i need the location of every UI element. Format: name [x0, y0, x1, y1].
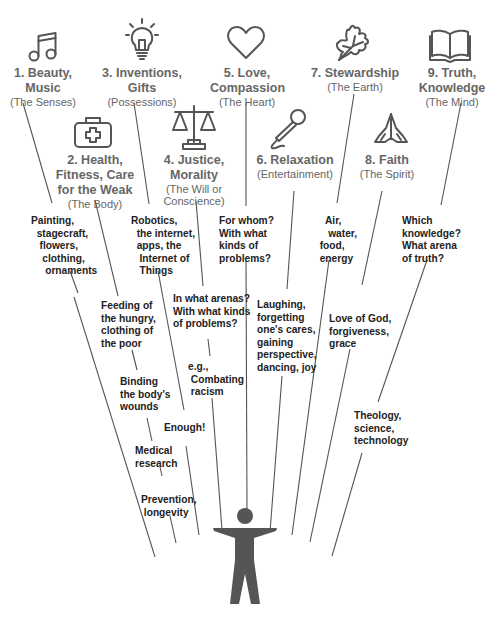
domain-title: 1. Beauty, Music	[0, 66, 86, 96]
line-health	[170, 516, 176, 543]
domain-title: 9. Truth, Knowledge	[414, 66, 490, 96]
domain-subtitle: (The Will or Conscience)	[156, 183, 232, 207]
line-truth	[441, 103, 461, 205]
domain-title: 2. Health, Fitness, Care for the Weak	[52, 153, 138, 198]
note-inventions-enough: Enough!	[164, 422, 205, 435]
note-justice-racism: e.g., Combating racism	[188, 361, 244, 399]
note-truth: Which knowledge? What arena of truth?	[402, 215, 461, 265]
line-relaxation	[287, 191, 294, 289]
domain-justice: 4. Justice, Morality (The Will or Consci…	[156, 153, 232, 207]
domain-inventions: 3. Inventions, Gifts (Possessions)	[102, 66, 182, 108]
domain-subtitle: (The Senses)	[0, 96, 86, 108]
domain-title: 8. Faith	[354, 153, 420, 168]
domain-title: 3. Inventions, Gifts	[102, 66, 182, 96]
line-beauty	[23, 103, 52, 203]
domain-health: 2. Health, Fitness, Care for the Weak (T…	[52, 153, 138, 210]
note-relaxation: Laughing, forgetting one's cares, gainin…	[257, 299, 316, 375]
line-health	[132, 350, 137, 370]
note-health-feeding: Feeding of the hungry, clothing of the p…	[101, 300, 156, 350]
leaf-icon	[333, 22, 373, 64]
domain-subtitle: (The Spirit)	[354, 168, 420, 180]
line-truth	[332, 453, 362, 556]
domain-subtitle: (The Earth)	[309, 81, 401, 93]
domain-title: 5. Love, Compassion	[210, 66, 284, 96]
domain-title: 4. Justice, Morality	[156, 153, 232, 183]
line-inventions	[186, 446, 199, 535]
domain-subtitle: (The Heart)	[210, 96, 284, 108]
domain-love: 5. Love, Compassion (The Heart)	[210, 66, 284, 108]
light-bulb-icon	[122, 16, 162, 62]
note-justice-arenas: In what arenas? With what kinds of probl…	[173, 293, 250, 331]
line-justice	[208, 339, 210, 356]
note-beauty: Painting, stagecraft, flowers, clothing,…	[31, 215, 97, 278]
music-note-icon	[27, 32, 59, 62]
domain-subtitle: (Entertainment)	[254, 168, 336, 180]
note-faith: Love of God, forgiveness, grace	[329, 313, 391, 351]
note-inventions: Robotics, the internet, apps, the Intern…	[131, 215, 195, 278]
scales-of-justice-icon	[171, 104, 217, 152]
note-health-prevention: Prevention, longevity	[141, 494, 196, 519]
domain-subtitle: (The Body)	[52, 198, 138, 210]
domain-subtitle: (Possessions)	[102, 96, 182, 108]
first-aid-kit-icon	[73, 115, 113, 149]
praying-hands-icon	[371, 110, 411, 150]
line-health	[95, 200, 118, 296]
domain-stewardship: 7. Stewardship (The Earth)	[309, 66, 401, 93]
note-truth-theology: Theology, science, technology	[354, 410, 408, 448]
domain-truth: 9. Truth, Knowledge (The Mind)	[414, 66, 490, 108]
human-figure-icon	[213, 508, 279, 610]
note-stewardship: Air, water, food, energy	[314, 215, 357, 265]
open-book-icon	[428, 28, 472, 64]
domain-title: 7. Stewardship	[309, 66, 401, 81]
line-justice	[196, 201, 203, 286]
domain-relaxation: 6. Relaxation (Entertainment)	[254, 153, 336, 180]
note-love: For whom? With what kinds of problems?	[219, 215, 274, 265]
line-faith	[362, 191, 382, 285]
domain-faith: 8. Faith (The Spirit)	[354, 153, 420, 180]
domain-beauty: 1. Beauty, Music (The Senses)	[0, 66, 86, 108]
heart-icon	[226, 25, 266, 61]
line-stewardship	[337, 94, 354, 203]
domain-subtitle: (The Mind)	[414, 96, 490, 108]
microphone-icon	[270, 108, 308, 150]
note-health-wounds: Binding the body's wounds	[120, 376, 171, 414]
domain-title: 6. Relaxation	[254, 153, 336, 168]
note-health-research: Medical research	[135, 445, 177, 470]
line-health	[147, 418, 152, 441]
